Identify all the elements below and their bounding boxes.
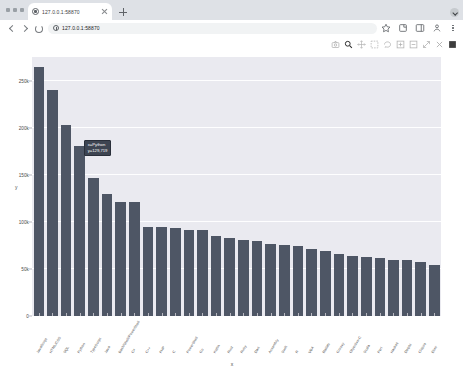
bar[interactable]	[238, 240, 249, 316]
bar-slot[interactable]	[373, 57, 387, 316]
bar[interactable]	[197, 230, 208, 316]
bookmark-star-icon[interactable]	[381, 23, 391, 33]
bar-slot[interactable]	[428, 57, 442, 316]
forward-arrow-icon[interactable]	[18, 22, 31, 35]
maximize-icon[interactable]	[13, 8, 17, 12]
y-tick-label: 150k	[19, 172, 29, 177]
bar-slot[interactable]	[359, 57, 373, 316]
bar-slot[interactable]	[414, 57, 428, 316]
bar-slot[interactable]	[332, 57, 346, 316]
bar-slot[interactable]	[100, 57, 114, 316]
y-axis-title: y	[15, 184, 18, 190]
bar-slot[interactable]	[237, 57, 251, 316]
browser-tab[interactable]: 127.0.0.1:58870	[28, 3, 112, 20]
bar[interactable]	[156, 227, 167, 316]
bar-slot[interactable]	[196, 57, 210, 316]
bar[interactable]	[170, 228, 181, 316]
bar-slot[interactable]	[318, 57, 332, 316]
bar-slot[interactable]	[114, 57, 128, 316]
chevron-down-icon[interactable]	[450, 8, 459, 17]
y-tick-mark	[29, 127, 32, 128]
bar-slot[interactable]	[141, 57, 155, 316]
x-tick-mark	[189, 313, 190, 316]
close-icon[interactable]	[101, 8, 108, 15]
bar-slot[interactable]	[400, 57, 414, 316]
x-tick-mark	[298, 313, 299, 316]
bar[interactable]	[429, 265, 440, 316]
profile-icon[interactable]	[432, 23, 442, 33]
extensions-icon[interactable]	[398, 23, 408, 33]
bar-slot[interactable]	[127, 57, 141, 316]
bar-slot[interactable]	[168, 57, 182, 316]
bar-slot[interactable]	[278, 57, 292, 316]
bar[interactable]	[143, 227, 154, 316]
bar-slot[interactable]	[291, 57, 305, 316]
bar[interactable]	[74, 146, 85, 316]
x-tick-mark	[325, 313, 326, 316]
zoom-in-icon[interactable]	[396, 40, 405, 49]
bar-slot[interactable]	[182, 57, 196, 316]
bar-slot[interactable]	[46, 57, 60, 316]
x-tick-label: HTML/CSS	[49, 336, 62, 354]
lasso-select-icon[interactable]	[383, 40, 392, 49]
bar[interactable]	[102, 194, 113, 316]
close-window-icon[interactable]	[20, 8, 24, 12]
bar[interactable]	[252, 241, 263, 316]
bar[interactable]	[265, 244, 276, 316]
bar[interactable]	[47, 90, 58, 316]
bar-slot[interactable]	[223, 57, 237, 316]
autoscale-icon[interactable]	[422, 40, 431, 49]
camera-download-icon[interactable]	[331, 40, 340, 49]
bar[interactable]	[361, 257, 372, 316]
bar-slot[interactable]	[264, 57, 278, 316]
bar[interactable]	[88, 178, 99, 316]
bar-slot[interactable]	[209, 57, 223, 316]
bar[interactable]	[388, 260, 399, 317]
bar-slot[interactable]	[346, 57, 360, 316]
bar[interactable]	[306, 249, 317, 316]
zoom-out-icon[interactable]	[409, 40, 418, 49]
back-arrow-icon[interactable]	[5, 22, 18, 35]
bar[interactable]	[61, 125, 72, 316]
bar[interactable]	[334, 254, 345, 316]
bar-slot[interactable]	[387, 57, 401, 316]
bar-slot[interactable]	[87, 57, 101, 316]
bar-slot[interactable]	[32, 57, 46, 316]
bar[interactable]	[415, 262, 426, 316]
bar[interactable]	[129, 202, 140, 316]
bar-slot[interactable]	[73, 57, 87, 316]
bar[interactable]	[402, 260, 413, 316]
bar[interactable]	[115, 202, 126, 316]
bar[interactable]	[320, 251, 331, 316]
bar[interactable]	[293, 246, 304, 316]
bar[interactable]	[279, 245, 290, 316]
bar[interactable]	[224, 238, 235, 316]
zoom-magnifier-icon[interactable]	[344, 40, 353, 49]
bar-slot[interactable]	[250, 57, 264, 316]
bar[interactable]	[211, 236, 222, 316]
pan-move-icon[interactable]	[357, 40, 366, 49]
info-circle-icon[interactable]	[53, 25, 59, 31]
bar[interactable]	[34, 67, 45, 316]
window-controls[interactable]	[4, 0, 28, 20]
bar-slot[interactable]	[59, 57, 73, 316]
page-content: y 050k100k150k200k250k JavaScriptHTML/CS…	[0, 36, 463, 369]
bar-series[interactable]	[32, 57, 441, 316]
x-tick-mark	[243, 313, 244, 316]
bar-slot[interactable]	[305, 57, 319, 316]
bar[interactable]	[347, 256, 358, 316]
side-panel-icon[interactable]	[415, 23, 425, 33]
box-select-icon[interactable]	[370, 40, 379, 49]
bar-slot[interactable]	[155, 57, 169, 316]
reset-axes-icon[interactable]	[435, 40, 444, 49]
reload-icon[interactable]	[31, 22, 44, 35]
toggle-spikelines-icon[interactable]	[448, 40, 457, 49]
x-tick-label: Dart	[254, 346, 261, 354]
minimize-icon[interactable]	[6, 8, 10, 12]
bar[interactable]	[375, 258, 386, 316]
new-tab-button[interactable]	[116, 5, 130, 19]
x-tick-label: Rust	[226, 345, 233, 354]
more-menu-icon[interactable]	[449, 23, 457, 33]
bar[interactable]	[184, 230, 195, 316]
address-bar[interactable]: 127.0.0.1:58870	[48, 23, 377, 34]
